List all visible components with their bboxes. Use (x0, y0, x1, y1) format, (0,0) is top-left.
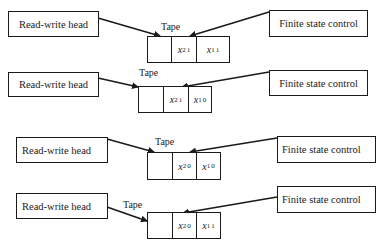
finite-state-control-label: Finite state control (279, 78, 358, 89)
control-arrow-3 (190, 138, 277, 152)
tape-label: Tape (161, 21, 180, 32)
tape-4: x20 x11 (147, 212, 221, 239)
read-write-head-box-1: Read-write head (8, 11, 99, 37)
tape-cell (148, 37, 172, 62)
tape-cell (139, 87, 164, 112)
control-arrow-1 (190, 12, 269, 36)
read-write-head-box-3: Read-write head (16, 137, 108, 163)
tape-cell: x21 (164, 87, 189, 112)
finite-state-control-box-3: Finite state control (277, 136, 376, 163)
read-write-head-box-2: Read-write head (8, 72, 99, 97)
head-arrow-1 (98, 18, 160, 36)
finite-state-control-box-2: Finite state control (269, 70, 368, 96)
tape-3: x20 x10 (147, 152, 221, 180)
finite-state-control-box-4: Finite state control (277, 186, 376, 213)
control-arrow-2 (182, 72, 269, 87)
tape-cell (148, 153, 173, 179)
tape-label: Tape (155, 136, 174, 147)
head-arrow-2 (98, 78, 138, 87)
tape-cell: x11 (197, 213, 220, 238)
tape-cell: x11 (197, 37, 229, 62)
tape-cell: x10 (197, 153, 220, 179)
tape-cell (148, 213, 173, 238)
finite-state-control-label: Finite state control (282, 194, 361, 205)
tape-2: x21 x10 (138, 86, 212, 113)
control-arrow-4 (183, 197, 277, 213)
read-write-head-label: Read-write head (19, 79, 88, 90)
read-write-head-box-4: Read-write head (16, 193, 108, 219)
tape-cell: x21 (172, 37, 197, 62)
tape-cell: x10 (189, 87, 211, 112)
tape-cell: x20 (173, 213, 197, 238)
tape-1: x21 x11 (147, 36, 230, 63)
finite-state-control-label: Finite state control (282, 144, 361, 155)
tape-label: Tape (139, 67, 158, 78)
read-write-head-label: Read-write head (22, 145, 91, 156)
read-write-head-label: Read-write head (19, 19, 88, 30)
tape-label: Tape (123, 199, 142, 210)
finite-state-control-label: Finite state control (279, 18, 358, 29)
read-write-head-label: Read-write head (22, 201, 91, 212)
tape-cell: x20 (173, 153, 197, 179)
head-arrow-3 (107, 139, 154, 152)
finite-state-control-box-1: Finite state control (269, 10, 368, 37)
